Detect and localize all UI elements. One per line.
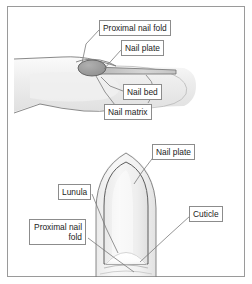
label-nail-plate-bottom: Nail plate — [152, 144, 195, 160]
label-proximal-nail-fold-bottom: Proximal nail fold — [29, 219, 86, 245]
label-nail-matrix: Nail matrix — [104, 104, 152, 120]
dorsal-fingertip-illustration — [88, 152, 190, 277]
distal-phalanx-shading — [30, 72, 120, 102]
label-cuticle: Cuticle — [189, 206, 223, 222]
label-nail-plate-top: Nail plate — [121, 40, 164, 56]
nail-anatomy-figure: Proximal nail fold Nail plate Nail bed N… — [0, 0, 252, 284]
label-lunula: Lunula — [58, 184, 91, 200]
label-nail-bed: Nail bed — [123, 84, 162, 100]
label-proximal-nail-fold-top: Proximal nail fold — [99, 20, 171, 36]
sagittal-finger-illustration — [14, 30, 196, 113]
